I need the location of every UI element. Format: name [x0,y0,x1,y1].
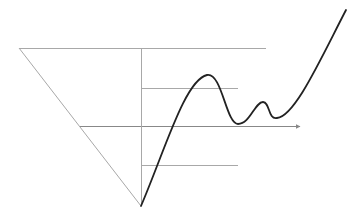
wave-curve [141,10,346,206]
diagram-svg [0,0,363,219]
guide-lines [19,49,300,166]
diagram-canvas [0,0,363,219]
